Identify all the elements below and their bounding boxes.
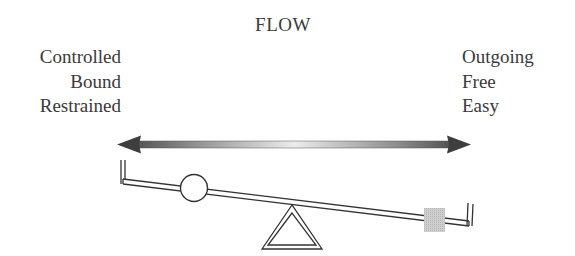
circle-weight	[181, 175, 208, 202]
square-weight	[424, 208, 445, 232]
arrow-head-right-icon	[447, 136, 471, 154]
fulcrum-triangle	[262, 205, 322, 249]
seesaw-diagram	[0, 0, 575, 256]
arrow-head-left-icon	[117, 136, 141, 154]
arrow-shaft	[137, 141, 451, 148]
right-handle	[467, 203, 473, 226]
flow-arrow	[117, 136, 471, 154]
